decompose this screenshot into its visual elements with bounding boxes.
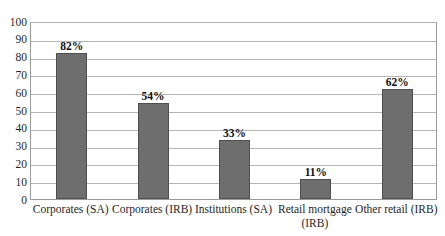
- y-axis-tick-label: 100: [0, 17, 27, 28]
- y-axis-tick-label: 90: [0, 34, 27, 45]
- x-axis-category-label-line: Institutions (SA): [190, 202, 277, 216]
- bar-group: 54%: [138, 23, 169, 199]
- bar-series: 82%54%33%11%62%: [31, 23, 436, 199]
- bar[interactable]: [219, 140, 250, 199]
- y-axis-tick-label: 60: [0, 88, 27, 99]
- y-axis-tick-label: 30: [0, 141, 27, 152]
- y-axis-tick-label: 40: [0, 123, 27, 134]
- bar[interactable]: [138, 103, 169, 199]
- x-axis-category-label: Institutions (SA): [190, 202, 277, 216]
- bar-value-label: 82%: [42, 40, 101, 52]
- bar[interactable]: [382, 89, 413, 199]
- bar-value-label: 33%: [205, 127, 264, 139]
- bar-value-label: 62%: [368, 76, 427, 88]
- bar-group: 11%: [300, 23, 331, 199]
- plot-area: 82%54%33%11%62%: [30, 22, 437, 200]
- bar-group: 82%: [56, 23, 87, 199]
- x-axis-category-label-line: Other retail (IRB): [353, 202, 440, 216]
- x-axis-category-label: Corporates (IRB): [108, 202, 195, 216]
- x-axis-category-label-line: Corporates (IRB): [108, 202, 195, 216]
- x-axis-category-label: Other retail (IRB): [353, 202, 440, 216]
- y-axis-tick-label: 0: [0, 195, 27, 206]
- x-axis-category-label-line: (IRB): [271, 216, 358, 230]
- bar[interactable]: [56, 53, 87, 199]
- bar-value-label: 11%: [286, 166, 345, 178]
- x-axis-labels: Corporates (SA)Corporates (IRB)Instituti…: [30, 202, 437, 236]
- bar-group: 62%: [382, 23, 413, 199]
- y-axis-tick-label: 70: [0, 70, 27, 81]
- y-axis-tick-label: 20: [0, 159, 27, 170]
- bar-value-label: 54%: [124, 90, 183, 102]
- x-axis-category-label-line: Corporates (SA): [27, 202, 114, 216]
- bar-chart: 1009080706050403020100 82%54%33%11%62% C…: [0, 0, 445, 236]
- y-axis-tick-label: 50: [0, 106, 27, 117]
- x-axis-category-label: Corporates (SA): [27, 202, 114, 216]
- x-axis-category-label: Retail mortgage(IRB): [271, 202, 358, 230]
- y-axis-tick-label: 80: [0, 52, 27, 63]
- y-axis-tick-label: 10: [0, 177, 27, 188]
- bar[interactable]: [300, 179, 331, 199]
- x-axis-category-label-line: Retail mortgage: [271, 202, 358, 216]
- bar-group: 33%: [219, 23, 250, 199]
